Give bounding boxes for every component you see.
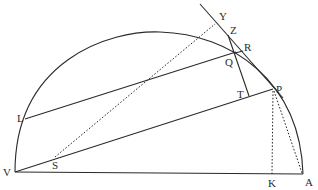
arc-VA [15, 32, 303, 174]
line-VA [15, 172, 303, 174]
label-Q: Q [225, 56, 233, 68]
line-LQ [25, 52, 236, 119]
dotted-line-PK [272, 91, 273, 174]
label-Z: Z [230, 24, 237, 36]
label-L: L [17, 112, 24, 124]
label-Y: Y [219, 10, 227, 22]
label-T: T [237, 88, 244, 100]
geometry-diagram: V A K P T L Q R Z Y S [0, 0, 318, 190]
label-A: A [305, 176, 313, 188]
label-V: V [3, 166, 11, 178]
dotted-line-PA [274, 91, 302, 173]
label-K: K [268, 177, 276, 189]
label-P: P [276, 83, 282, 95]
label-R: R [244, 41, 252, 53]
label-S: S [52, 159, 58, 171]
dotted-line-SY [55, 24, 215, 157]
diagram-canvas: V A K P T L Q R Z Y S [0, 0, 318, 190]
